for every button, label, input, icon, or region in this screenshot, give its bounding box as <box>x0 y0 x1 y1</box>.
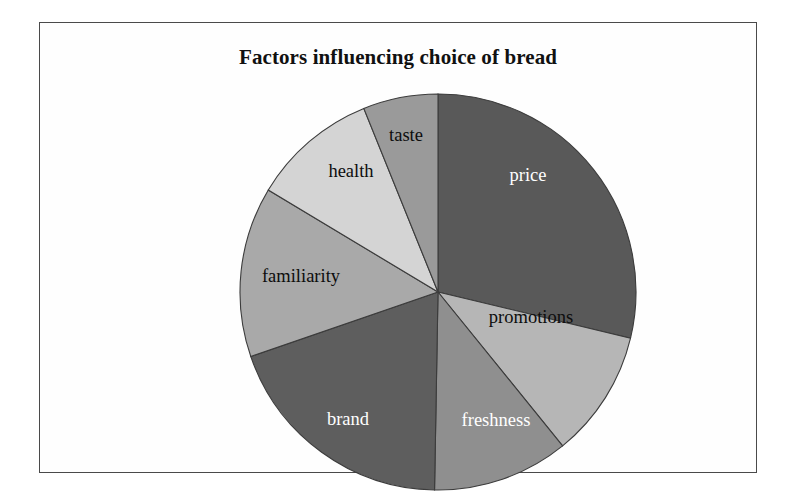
pie-chart-svg: pricepromotionsfreshnessbrandfamiliarity… <box>238 92 638 492</box>
pie-slice-label-familiarity: familiarity <box>262 266 341 286</box>
pie-slice-label-taste: taste <box>389 125 423 145</box>
figure-frame: Factors influencing choice of bread pric… <box>39 22 757 473</box>
pie-slice-label-brand: brand <box>327 409 370 429</box>
chart-title: Factors influencing choice of bread <box>40 45 756 70</box>
pie-chart: pricepromotionsfreshnessbrandfamiliarity… <box>238 92 638 492</box>
pie-slice-label-freshness: freshness <box>462 410 531 430</box>
pie-slice-label-health: health <box>328 161 373 181</box>
screenshot-canvas: Factors influencing choice of bread pric… <box>0 0 798 494</box>
pie-slice-label-promotions: promotions <box>489 307 573 327</box>
pie-slice-group <box>240 94 636 490</box>
pie-slice-label-price: price <box>510 165 547 185</box>
